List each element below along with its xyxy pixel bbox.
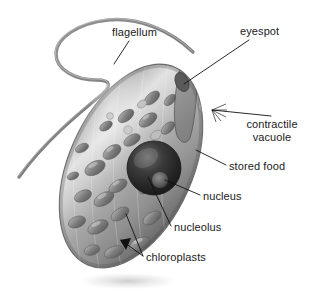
label-contractile-line2: vacuole — [253, 131, 292, 143]
label-stored-food: stored food — [229, 160, 285, 173]
label-contractile-vacuole: contractile vacuole — [236, 118, 308, 143]
label-chloroplasts: chloroplasts — [146, 251, 206, 264]
stored-food-granule — [107, 113, 114, 120]
bottom-cropped-caption — [0, 290, 310, 298]
label-nucleus: nucleus — [203, 190, 242, 203]
cell-drop-shadow — [76, 272, 180, 290]
label-contractile-line1: contractile — [246, 118, 297, 130]
label-eyespot: eyespot — [240, 25, 279, 38]
stored-food-granule — [124, 126, 132, 134]
label-nucleolus: nucleolus — [174, 221, 221, 234]
nucleus-structure — [127, 141, 181, 195]
label-flagellum: flagellum — [112, 26, 157, 39]
